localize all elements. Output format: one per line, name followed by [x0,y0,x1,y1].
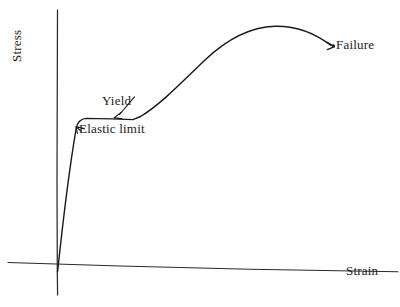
y-axis-label: Stress [10,30,23,62]
x-axis-label: Strain [346,264,378,277]
failure-point-dot [332,44,335,47]
annotation-elastic-limit: Elastic limit [79,122,145,135]
annotation-yield: Yield [102,94,131,107]
stress-strain-figure: Stress Strain Yield Elastic limit Failur… [0,0,400,307]
y-axis-line [57,10,58,295]
x-axis-line [8,263,398,272]
curve-elastic-and-yield [58,117,141,272]
yield-arrowhead-icon [114,112,122,119]
curve-hardening-to-failure [141,26,332,116]
annotation-failure: Failure [336,38,374,51]
